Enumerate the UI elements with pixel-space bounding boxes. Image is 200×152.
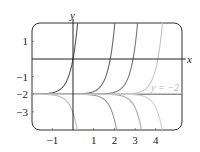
y-axis-label: y	[69, 9, 75, 21]
x-tick-label: 3	[132, 134, 138, 146]
x-tick-label: 1	[91, 134, 97, 146]
curves-group	[32, 6, 182, 147]
y-tick-label: −3	[16, 106, 28, 118]
y-tick-label: 1	[23, 35, 29, 47]
x-axis-label: x	[186, 53, 192, 65]
x-tick-label: 2	[112, 134, 118, 146]
upper-solution-4-curve	[32, 6, 164, 94]
x-tick-label: 4	[153, 134, 159, 146]
asymptote-label: y = −2	[150, 82, 179, 93]
plot-frame	[32, 23, 182, 130]
solution-curves-chart: −112341−1−2−3 x y y = −2	[0, 0, 200, 152]
x-tick-label: −1	[46, 134, 58, 146]
y-tick-label: −2	[16, 88, 28, 100]
upper-solution-3-curve	[32, 6, 140, 94]
y-tick-label: −1	[16, 71, 28, 83]
axes-group	[32, 19, 186, 130]
